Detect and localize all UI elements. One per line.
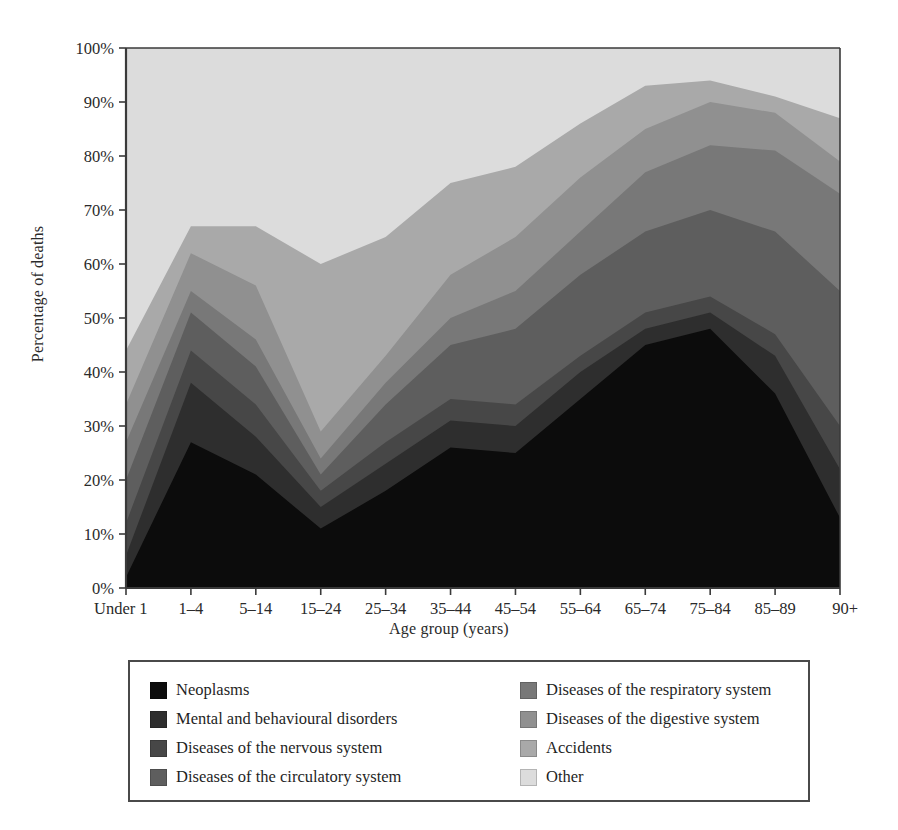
x-axis-title: Age group (years) <box>0 620 898 638</box>
legend-item[interactable]: Diseases of the digestive system <box>520 705 790 734</box>
y-tick-label: 30% <box>84 417 115 436</box>
legend-swatch-icon <box>520 682 537 699</box>
legend-item[interactable]: Diseases of the respiratory system <box>520 676 790 705</box>
x-tick-label: 90+ <box>832 599 858 615</box>
legend-item[interactable]: Diseases of the circulatory system <box>150 763 520 792</box>
legend-item[interactable]: Neoplasms <box>150 676 520 705</box>
legend-item[interactable]: Mental and behavioural disorders <box>150 705 520 734</box>
x-tick-label: 85–89 <box>754 599 795 615</box>
legend-box: NeoplasmsDiseases of the respiratory sys… <box>128 660 810 802</box>
y-tick-label: 20% <box>84 471 115 490</box>
x-tick-group: Under 11–45–1415–2425–3435–4445–5455–646… <box>94 588 858 615</box>
legend-item-label: Diseases of the nervous system <box>176 740 382 757</box>
legend-swatch-icon <box>520 711 537 728</box>
y-tick-label: 0% <box>92 579 114 598</box>
area-series-group <box>126 48 840 588</box>
y-tick-label: 50% <box>84 309 115 328</box>
x-tick-label: 25–34 <box>365 599 406 615</box>
legend-item[interactable]: Diseases of the nervous system <box>150 734 520 763</box>
legend-swatch-icon <box>150 682 167 699</box>
x-tick-label: 35–44 <box>430 599 471 615</box>
stacked-area-chart: 0%10%20%30%40%50%60%70%80%90%100% Under … <box>0 0 898 615</box>
legend-item[interactable]: Other <box>520 763 790 792</box>
legend-item-label: Neoplasms <box>176 682 249 699</box>
x-axis-title-text: Age group (years) <box>389 620 509 637</box>
legend-items: NeoplasmsDiseases of the respiratory sys… <box>130 662 808 800</box>
y-tick-label: 40% <box>84 363 115 382</box>
plot-area: 0%10%20%30%40%50%60%70%80%90%100% Under … <box>0 0 898 615</box>
legend-swatch-icon <box>520 769 537 786</box>
chart-page: Percentage of deaths 0%10%20%30%40%50%60… <box>0 0 898 830</box>
x-tick-label: 55–64 <box>560 599 601 615</box>
legend-item-label: Mental and behavioural disorders <box>176 711 397 728</box>
legend-item-label: Diseases of the respiratory system <box>546 682 771 699</box>
legend-swatch-icon <box>150 769 167 786</box>
legend-item-label: Diseases of the digestive system <box>546 711 760 728</box>
legend-item[interactable]: Accidents <box>520 734 790 763</box>
legend-swatch-icon <box>150 711 167 728</box>
y-tick-label: 90% <box>84 93 115 112</box>
legend-swatch-icon <box>150 740 167 757</box>
x-tick-label: 15–24 <box>300 599 341 615</box>
y-tick-group: 0%10%20%30%40%50%60%70%80%90%100% <box>76 39 127 598</box>
legend-swatch-icon <box>520 740 537 757</box>
y-tick-label: 10% <box>84 525 115 544</box>
x-tick-label: Under 1 <box>94 599 148 615</box>
x-tick-label: 1–4 <box>179 599 204 615</box>
legend-item-label: Other <box>546 769 584 786</box>
y-tick-label: 60% <box>84 255 115 274</box>
x-tick-label: 45–54 <box>495 599 536 615</box>
y-tick-label: 100% <box>76 39 115 58</box>
legend-item-label: Diseases of the circulatory system <box>176 769 401 786</box>
x-tick-label: 5–14 <box>239 599 272 615</box>
y-tick-label: 80% <box>84 147 115 166</box>
x-tick-label: 75–84 <box>690 599 731 615</box>
y-tick-label: 70% <box>84 201 115 220</box>
x-tick-label: 65–74 <box>625 599 666 615</box>
legend-item-label: Accidents <box>546 740 612 757</box>
